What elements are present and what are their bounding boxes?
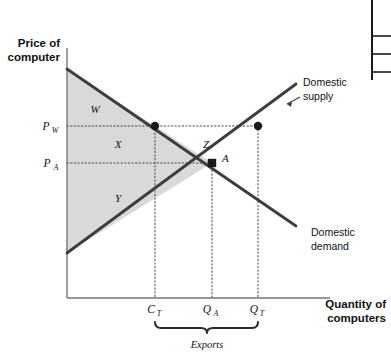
ct-symbol: C <box>147 303 155 315</box>
exports-brace-label: Exports <box>190 339 224 350</box>
autarky-price-subscript: A <box>53 163 59 172</box>
autarky-equilibrium-point-marker[interactable] <box>208 159 216 167</box>
x-axis-title-line1: Quantity of <box>325 298 386 310</box>
y-axis-title-line2: computer <box>8 51 61 63</box>
region-z-label: Z <box>203 138 210 150</box>
ct-subscript: T <box>157 309 162 318</box>
autarky-price-symbol: P <box>42 157 50 169</box>
qa-subscript: A <box>213 309 219 318</box>
production-point-marker[interactable] <box>254 122 262 130</box>
y-axis-title-line1: Price of <box>18 37 60 49</box>
qt-symbol: Q <box>250 303 259 315</box>
domestic-supply-label-line1: Domestic <box>303 76 347 88</box>
domestic-demand-label-line1: Domestic <box>311 226 355 238</box>
region-x-label: X <box>114 138 123 150</box>
point-a-label: A <box>221 152 229 164</box>
world-price-symbol: P <box>41 120 49 132</box>
region-w-label: W <box>90 103 100 115</box>
domestic-supply-label-line2: supply <box>303 90 334 102</box>
consumption-point-marker[interactable] <box>151 122 159 130</box>
qt-subscript: T <box>260 309 265 318</box>
x-axis-title-line2: computers <box>327 312 386 324</box>
qa-symbol: Q <box>203 303 212 315</box>
domestic-demand-label-line2: demand <box>311 240 349 252</box>
trade-diagram-figure: A W X Y Z P W P A C T Q A Q T Exports Do… <box>0 0 391 358</box>
